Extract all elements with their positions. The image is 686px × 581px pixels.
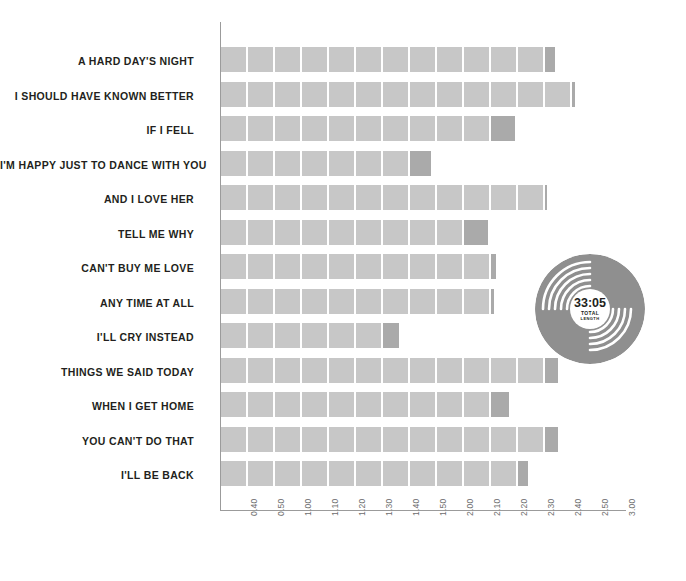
bar-segment xyxy=(302,185,327,210)
bar-segment xyxy=(383,358,408,383)
bar-segment xyxy=(437,358,462,383)
bar-segment xyxy=(329,289,354,314)
bar-segment xyxy=(464,254,489,279)
bar-segment xyxy=(491,185,516,210)
bar-segment xyxy=(383,82,408,107)
bar-row xyxy=(221,113,626,148)
bar-segment xyxy=(248,185,273,210)
bar-segment xyxy=(248,289,273,314)
x-tick-label: 1.00 xyxy=(303,499,313,516)
bar-segment xyxy=(221,116,246,141)
bar-segment xyxy=(356,323,381,348)
x-tick-label: 2.20 xyxy=(519,499,529,516)
bar-segment xyxy=(518,47,543,72)
bar-segment xyxy=(383,427,408,452)
category-label: CAN'T BUY ME LOVE xyxy=(0,251,206,286)
bar-remainder-segment xyxy=(491,289,494,314)
bar-segment xyxy=(491,461,516,486)
bar-segment xyxy=(248,220,273,245)
bar-segment xyxy=(410,358,435,383)
category-label: WHEN I GET HOME xyxy=(0,389,206,424)
bar-segment xyxy=(248,116,273,141)
bar-row xyxy=(221,424,626,459)
vinyl-record-icon: 33:05 TOTAL LENGTH xyxy=(533,252,647,366)
bar-segment xyxy=(329,47,354,72)
bar-segment xyxy=(464,47,489,72)
category-label: ANY TIME AT ALL xyxy=(0,286,206,321)
bar xyxy=(221,289,494,314)
bar-remainder-segment xyxy=(410,151,432,176)
category-axis-labels: A HARD DAY'S NIGHTI SHOULD HAVE KNOWN BE… xyxy=(0,44,206,493)
bar-segment xyxy=(464,358,489,383)
bar-segment xyxy=(329,323,354,348)
x-tick-label: 0.50 xyxy=(276,499,286,516)
bar-segment xyxy=(221,289,246,314)
x-tick-label: 1.50 xyxy=(438,499,448,516)
bar-segment xyxy=(356,151,381,176)
x-tick-label: 1.20 xyxy=(357,499,367,516)
bar-segment xyxy=(410,185,435,210)
bar-segment xyxy=(410,82,435,107)
bar-segment xyxy=(464,289,489,314)
bar-remainder-segment xyxy=(491,116,515,141)
category-label: AND I LOVE HER xyxy=(0,182,206,217)
bar-segment xyxy=(248,323,273,348)
category-label: IF I FELL xyxy=(0,113,206,148)
bar-segment xyxy=(437,116,462,141)
bar-row xyxy=(221,389,626,424)
bar-row xyxy=(221,44,626,79)
x-tick-label: 1.30 xyxy=(384,499,394,516)
bar-segment xyxy=(545,82,570,107)
bar-segment xyxy=(491,47,516,72)
bar-segment xyxy=(248,461,273,486)
bar-segment xyxy=(383,47,408,72)
bar-segment xyxy=(383,461,408,486)
bar-segment xyxy=(248,151,273,176)
bar-segment xyxy=(302,254,327,279)
bar-segment xyxy=(437,47,462,72)
bar-segment xyxy=(221,220,246,245)
bar-row xyxy=(221,148,626,183)
bar-segment xyxy=(329,427,354,452)
bar-segment xyxy=(437,185,462,210)
x-tick-label: 2.40 xyxy=(573,499,583,516)
bar-segment xyxy=(329,254,354,279)
bar-segment xyxy=(302,82,327,107)
bar-segment xyxy=(329,185,354,210)
category-label: I'M HAPPY JUST TO DANCE WITH YOU xyxy=(0,148,206,183)
bar-segment xyxy=(410,289,435,314)
bar-segment xyxy=(221,392,246,417)
bar-segment xyxy=(302,220,327,245)
x-tick-label: 3.00 xyxy=(627,499,637,516)
bar-segment xyxy=(356,358,381,383)
x-tick-label: 2.10 xyxy=(492,499,502,516)
bar-segment xyxy=(275,427,300,452)
bar-segment xyxy=(302,151,327,176)
bar-segment xyxy=(356,392,381,417)
bar-remainder-segment xyxy=(464,220,488,245)
category-label: THINGS WE SAID TODAY xyxy=(0,355,206,390)
bar-segment xyxy=(383,289,408,314)
bar-segment xyxy=(221,323,246,348)
bar-segment xyxy=(275,461,300,486)
bar-remainder-segment xyxy=(545,185,547,210)
bar-segment xyxy=(383,151,408,176)
bar-row xyxy=(221,458,626,493)
bar-segment xyxy=(248,82,273,107)
bar xyxy=(221,461,528,486)
bar-segment xyxy=(518,185,543,210)
category-label: I'LL CRY INSTEAD xyxy=(0,320,206,355)
bar xyxy=(221,185,547,210)
bar-segment xyxy=(275,82,300,107)
bar-segment xyxy=(383,392,408,417)
bar-segment xyxy=(302,47,327,72)
bar-segment xyxy=(275,151,300,176)
bar-segment xyxy=(329,116,354,141)
bar xyxy=(221,392,509,417)
bar-segment xyxy=(329,358,354,383)
bar-segment xyxy=(410,47,435,72)
bar-segment xyxy=(221,185,246,210)
bar-segment xyxy=(302,392,327,417)
bar xyxy=(221,254,496,279)
bar-segment xyxy=(491,82,516,107)
